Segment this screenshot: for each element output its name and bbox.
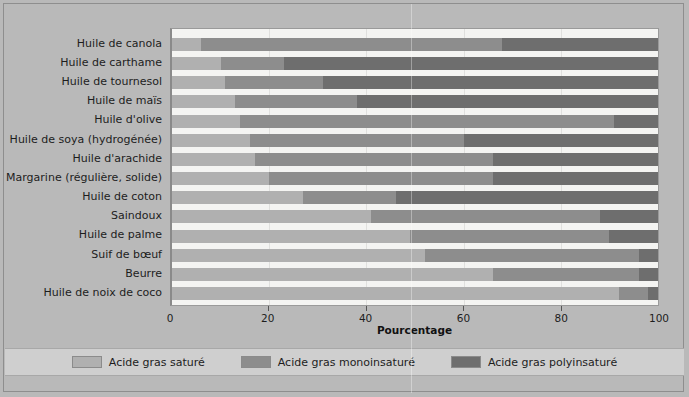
table-row (172, 150, 658, 169)
legend-swatch-poly (451, 356, 481, 368)
bar-segment-poly (614, 115, 658, 128)
table-row (172, 246, 658, 265)
axis-tick-label: 80 (555, 312, 568, 324)
bar-segment-mono (410, 230, 609, 243)
chart-legend: Acide gras saturéAcide gras monoinsaturé… (5, 348, 684, 376)
legend-item: Acide gras monoinsaturé (241, 356, 415, 369)
bar-segment-poly (493, 153, 658, 166)
stacked-bar (172, 287, 658, 300)
bar-segment-sat (172, 249, 425, 262)
bars-container (172, 29, 658, 305)
axis-tick-label: 60 (457, 312, 470, 324)
category-label: Beurre (125, 264, 162, 283)
category-label: Huile de canola (77, 34, 162, 53)
table-row (172, 169, 658, 188)
table-row (172, 111, 658, 130)
bar-segment-poly (502, 38, 658, 51)
table-row (172, 226, 658, 245)
bar-segment-poly (284, 57, 658, 70)
bar-segment-poly (639, 268, 658, 281)
category-label: Suif de bœuf (91, 245, 162, 264)
bar-segment-mono (425, 249, 639, 262)
bar-segment-poly (323, 76, 658, 89)
bar-segment-mono (221, 57, 284, 70)
axis-tick-label: 20 (261, 312, 274, 324)
stacked-bar (172, 230, 658, 243)
chart-canvas: Huile de canolaHuile de carthameHuile de… (4, 4, 685, 344)
table-row (172, 265, 658, 284)
axis-tick (268, 306, 269, 311)
bar-segment-sat (172, 268, 493, 281)
stacked-bar (172, 191, 658, 204)
legend-item: Acide gras polyinsaturé (451, 356, 617, 369)
bar-segment-mono (303, 191, 395, 204)
stacked-bar (172, 268, 658, 281)
bar-segment-mono (250, 134, 464, 147)
bar-segment-poly (493, 172, 658, 185)
bar-segment-poly (600, 210, 658, 223)
bar-segment-mono (240, 115, 614, 128)
bar-segment-sat (172, 115, 240, 128)
table-row (172, 73, 658, 92)
legend-item: Acide gras saturé (72, 356, 205, 369)
category-label: Huile d'olive (94, 110, 162, 129)
stacked-bar (172, 153, 658, 166)
bar-segment-sat (172, 191, 303, 204)
legend-label: Acide gras monoinsaturé (278, 356, 415, 369)
page-fold-line (411, 4, 412, 393)
category-label: Huile de carthame (60, 53, 162, 72)
table-row (172, 207, 658, 226)
stacked-bar (172, 38, 658, 51)
table-row (172, 284, 658, 303)
bar-segment-poly (639, 249, 658, 262)
bar-segment-sat (172, 57, 221, 70)
bar-segment-mono (371, 210, 599, 223)
category-label: Margarine (régulière, solide) (6, 168, 162, 187)
bar-segment-sat (172, 153, 255, 166)
axis-tick-label: 100 (649, 312, 669, 324)
bar-segment-sat (172, 230, 410, 243)
bar-segment-mono (255, 153, 493, 166)
table-row (172, 131, 658, 150)
legend-label: Acide gras polyinsaturé (488, 356, 617, 369)
x-axis-title: Pourcentage (170, 324, 659, 336)
bar-segment-sat (172, 172, 269, 185)
axis-tick (463, 306, 464, 311)
bar-segment-poly (396, 191, 658, 204)
category-label: Huile de soya (hydrogénée) (10, 130, 162, 149)
bar-segment-mono (493, 268, 639, 281)
stacked-bar (172, 210, 658, 223)
category-label: Huile de maïs (87, 91, 162, 110)
table-row (172, 54, 658, 73)
axis-tick (561, 306, 562, 311)
stacked-bar (172, 115, 658, 128)
legend-swatch-mono (241, 356, 271, 368)
axis-tick-label: 40 (359, 312, 372, 324)
stacked-bar (172, 95, 658, 108)
plot-area (170, 28, 659, 306)
legend-swatch-sat (72, 356, 102, 368)
bar-segment-poly (464, 134, 658, 147)
bar-segment-mono (619, 287, 648, 300)
category-label: Huile de tournesol (62, 72, 162, 91)
stacked-bar (172, 249, 658, 262)
stacked-bar (172, 57, 658, 70)
axis-tick-label: 0 (167, 312, 174, 324)
bar-segment-sat (172, 134, 250, 147)
bar-segment-poly (648, 287, 658, 300)
stacked-bar (172, 172, 658, 185)
bar-segment-poly (609, 230, 658, 243)
table-row (172, 35, 658, 54)
category-label: Huile de palme (79, 225, 162, 244)
bar-segment-mono (235, 95, 357, 108)
table-row (172, 188, 658, 207)
category-axis-labels: Huile de canolaHuile de carthameHuile de… (4, 28, 167, 306)
category-label: Huile de noix de coco (44, 283, 162, 302)
table-row (172, 92, 658, 111)
category-label: Huile d'arachide (73, 149, 162, 168)
bar-segment-poly (357, 95, 658, 108)
bar-segment-mono (225, 76, 322, 89)
legend-label: Acide gras saturé (109, 356, 205, 369)
stacked-bar (172, 134, 658, 147)
bar-segment-sat (172, 95, 235, 108)
